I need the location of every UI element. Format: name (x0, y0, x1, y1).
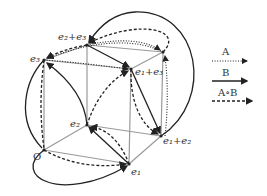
b-arrows (25, 12, 193, 185)
legend-aob-label: A∘B (217, 87, 237, 98)
label-origin: O (33, 151, 41, 162)
cube-mapping-diagram: O e₁ e₂ e₃ e₁+e₂ e₁+e₃ e₂+e₃ A B A∘B (0, 0, 267, 196)
label-e1-plus-e3: e₁+e₃ (135, 66, 163, 77)
legend-a-label: A (221, 46, 230, 57)
label-e2-plus-e3: e₂+e₃ (58, 31, 86, 42)
legend: A B A∘B (212, 46, 252, 101)
label-e3: e₃ (30, 53, 40, 64)
label-e1-plus-e2: e₁+e₂ (163, 135, 191, 146)
label-e1: e₁ (131, 166, 141, 177)
legend-b-label: B (222, 67, 229, 78)
cube-edges (44, 45, 163, 164)
aob-arrows (41, 29, 169, 166)
label-e2: e₂ (70, 118, 80, 129)
